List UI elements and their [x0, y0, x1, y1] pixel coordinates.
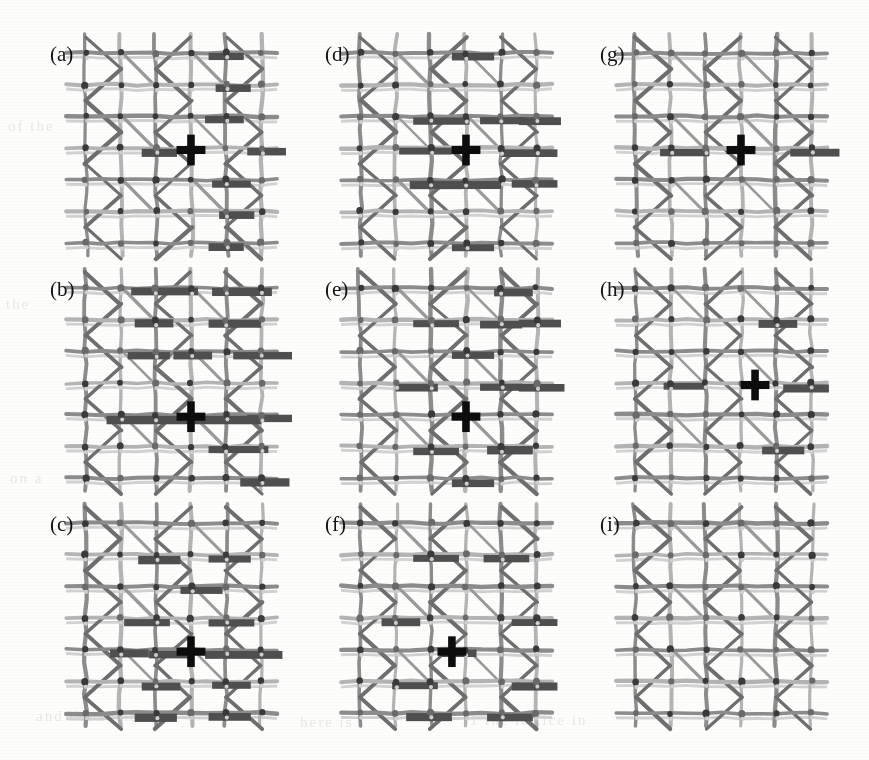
lattice-node-echo: [395, 652, 399, 656]
lattice-vertical-lines-a: [84, 34, 263, 256]
panel-label-g: (g): [600, 44, 625, 65]
lattice-node-echo: [394, 526, 398, 530]
lattice-node-echo: [224, 151, 228, 155]
lattice-node: [188, 82, 194, 88]
lattice-node-echo: [154, 418, 158, 422]
lattice-node: [737, 315, 744, 322]
lattice-node: [499, 380, 505, 386]
lattice-canvas-a: [62, 30, 292, 270]
lattice-node: [498, 678, 505, 685]
lattice-node: [222, 709, 229, 716]
lattice-node: [427, 474, 434, 482]
lattice-node: [666, 442, 672, 449]
lattice-node: [82, 239, 89, 246]
lattice-node: [258, 50, 264, 56]
lattice-node-echo: [465, 716, 469, 720]
lattice-node: [463, 710, 469, 716]
lattice-node: [427, 49, 434, 56]
lattice-node-echo: [261, 715, 265, 719]
lattice-node: [428, 208, 434, 214]
lattice-node-echo: [395, 558, 399, 562]
lattice-node: [668, 552, 674, 558]
lattice-panel-a: (a): [62, 30, 292, 270]
lattice-node: [153, 614, 160, 621]
lattice-node: [807, 519, 814, 527]
lattice-node: [737, 442, 744, 449]
lattice-node: [773, 678, 779, 685]
lattice-node-echo: [395, 150, 399, 154]
lattice-horizontal-line: [66, 382, 277, 384]
lattice-node: [259, 146, 265, 152]
lattice-node-echo: [501, 558, 505, 562]
lattice-panel-d: (d): [337, 30, 567, 270]
lattice-node: [152, 412, 158, 419]
lattice-node-echo: [394, 291, 398, 295]
lattice-node-echo: [500, 152, 504, 156]
lattice-node: [497, 443, 504, 451]
lattice-node-echo: [394, 354, 398, 358]
lattice-node: [702, 144, 709, 151]
lattice-node: [532, 177, 539, 184]
lattice-node-echo: [154, 653, 158, 657]
lattice-node-echo: [359, 526, 363, 530]
lattice-canvas-i: [612, 500, 842, 740]
lattice-node: [774, 475, 780, 481]
lattice-node: [632, 411, 639, 419]
lattice-node: [633, 240, 639, 247]
lattice-node-echo: [430, 247, 434, 251]
lattice-node: [633, 520, 640, 527]
lattice-node-echo: [704, 590, 708, 594]
lattice-node-echo: [359, 621, 363, 625]
lattice-node: [357, 114, 364, 121]
lattice-node-echo: [225, 620, 229, 624]
lattice-node-echo: [119, 652, 123, 656]
lattice-horizontal-line: [616, 287, 827, 289]
lattice-node: [392, 144, 399, 151]
lattice-node-echo: [775, 449, 779, 453]
lattice-node: [259, 208, 266, 215]
lattice-node-echo: [260, 56, 264, 60]
lattice-node: [187, 615, 194, 623]
lattice-node-echo: [500, 214, 504, 218]
lattice-node: [773, 317, 780, 324]
lattice-horizontal-line: [341, 84, 552, 86]
highlighted-bond-bar: [519, 384, 565, 392]
lattice-node: [81, 82, 88, 90]
lattice-node-echo: [635, 449, 639, 453]
lattice-node-echo: [704, 290, 708, 294]
lattice-node-echo: [740, 526, 744, 530]
lattice-node: [774, 240, 780, 246]
lattice-node: [258, 285, 264, 292]
lattice-node-echo: [670, 322, 674, 326]
lattice-node-echo: [84, 354, 88, 358]
lattice-node-echo: [154, 291, 158, 295]
lattice-node: [497, 285, 504, 292]
lattice-node: [703, 475, 709, 482]
lattice-node-echo: [536, 323, 540, 327]
lattice-node-echo: [466, 291, 470, 295]
lattice-node: [258, 80, 265, 88]
lattice-node: [117, 646, 123, 653]
lattice-node: [82, 584, 88, 591]
lattice-node-echo: [190, 450, 194, 454]
lattice-node: [464, 285, 470, 291]
lattice-vertical-lines-i: [633, 504, 814, 726]
lattice-node-echo: [669, 449, 673, 453]
lattice-vertical-line: [84, 504, 87, 726]
lattice-node: [773, 145, 780, 152]
lattice-node-echo: [225, 652, 229, 656]
lattice-node-echo: [464, 87, 468, 91]
lattice-node-echo: [155, 88, 159, 92]
lattice-node: [117, 475, 123, 482]
lattice-node-echo: [359, 182, 363, 186]
lattice-node-echo: [499, 653, 503, 657]
lattice-node: [82, 177, 88, 183]
lattice-node: [358, 317, 364, 323]
lattice-node-echo: [261, 322, 265, 326]
lattice-node: [427, 240, 434, 247]
highlighted-bonds-c: [110, 556, 282, 722]
lattice-node: [533, 240, 540, 248]
lattice-vertical-line: [358, 269, 362, 491]
lattice-horizontal-line: [66, 617, 277, 619]
lattice-node-echo: [155, 386, 159, 390]
